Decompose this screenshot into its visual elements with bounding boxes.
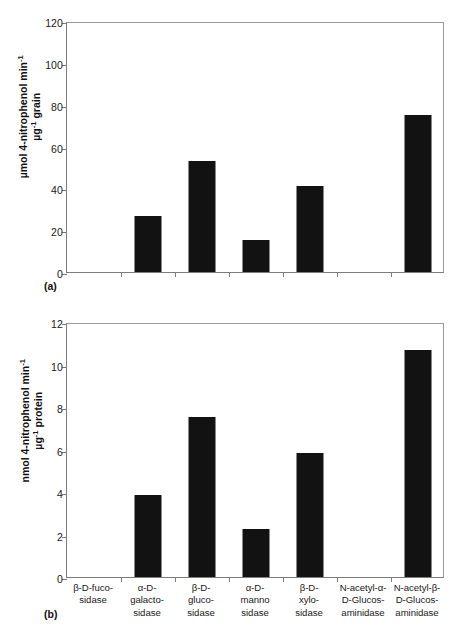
bar [405, 350, 432, 577]
x-axis-category-label-line: D-Glucos- [384, 594, 450, 606]
x-axis-tick [391, 272, 392, 277]
panel-letter-a: (a) [44, 280, 57, 292]
y-axis-title-b-line2-tail: protein [32, 392, 44, 431]
bar-slot [229, 324, 283, 577]
y-axis-title-b: nmol 4-nitrophenol min-1 µg-1 protein [19, 321, 45, 521]
y-axis-tick-label: 100 [45, 60, 63, 71]
y-axis-title-a-line2-sup: -1 [29, 121, 38, 128]
bar [135, 495, 162, 577]
y-axis-tick-label: 12 [51, 319, 63, 330]
x-axis-category-label: N-acetyl-β-D-Glucos-aminidase [384, 582, 450, 619]
bar-group-b [67, 324, 443, 577]
y-axis-title-a: µmol 4-nitrophenol min-1 µg-1 grain [17, 17, 43, 217]
bar [189, 417, 216, 577]
y-axis-tick-label: 10 [51, 361, 63, 372]
y-axis-title-b-line2: µg [32, 437, 44, 449]
bar [297, 186, 324, 272]
panel-a: µmol 4-nitrophenol min-1 µg-1 grain 0204… [0, 0, 460, 300]
bar-slot [67, 23, 121, 272]
bar [405, 115, 432, 272]
bar-slot [337, 23, 391, 272]
plot-area-a: 020406080100120 [66, 22, 444, 273]
y-axis-tick-label: 120 [45, 18, 63, 29]
y-axis-title-b-line1-sup: -1 [18, 359, 27, 366]
bar [297, 453, 324, 577]
y-axis-tick-label: 8 [57, 404, 63, 415]
y-axis-tick-label: 40 [51, 185, 63, 196]
bar [189, 161, 216, 272]
x-axis-tick [283, 272, 284, 277]
bar-slot [121, 23, 175, 272]
panel-letter-b: (b) [44, 608, 57, 620]
bar-slot [175, 23, 229, 272]
y-axis-tick-label: 60 [51, 143, 63, 154]
x-axis-category-label-line: N-acetyl-β- [384, 582, 450, 594]
y-axis-title-a-line2-tail: grain [30, 93, 42, 122]
plot-area-b: 024681012 [66, 323, 444, 578]
x-axis-category-label-line: aminidase [384, 607, 450, 619]
bar-slot [337, 324, 391, 577]
bar-slot [67, 324, 121, 577]
y-axis-tick-label: 2 [57, 531, 63, 542]
bar [243, 240, 270, 272]
y-axis-title-a-line1-sup: -1 [16, 55, 25, 62]
y-axis-tick-label: 80 [51, 101, 63, 112]
x-axis-tick [337, 272, 338, 277]
bar-slot [229, 23, 283, 272]
y-axis-tick-label: 6 [57, 446, 63, 457]
bar-slot [391, 23, 445, 272]
bar-slot [283, 324, 337, 577]
bar-group-a [67, 23, 443, 272]
x-axis-tick [229, 272, 230, 277]
x-axis-category-labels: β-D-fuco-sidaseα-D-galacto-sidaseβ-D-glu… [66, 582, 444, 632]
bar-slot [283, 23, 337, 272]
y-axis-title-b-line1: nmol 4-nitrophenol min [19, 366, 31, 483]
bar-slot [391, 324, 445, 577]
x-axis-tick [175, 272, 176, 277]
y-axis-title-b-line2-sup: -1 [31, 430, 40, 437]
bar [135, 216, 162, 272]
bar-slot [121, 324, 175, 577]
bar-slot [175, 324, 229, 577]
bar [243, 529, 270, 577]
y-axis-tick-label: 20 [51, 227, 63, 238]
y-axis-title-a-line1: µmol 4-nitrophenol min [17, 62, 29, 178]
x-axis-tick [121, 272, 122, 277]
y-axis-tick-label: 0 [57, 269, 63, 280]
y-axis-tick-label: 4 [57, 489, 63, 500]
y-axis-title-a-line2: µg [30, 128, 42, 140]
figure-enzyme-activity: µmol 4-nitrophenol min-1 µg-1 grain 0204… [0, 0, 460, 644]
